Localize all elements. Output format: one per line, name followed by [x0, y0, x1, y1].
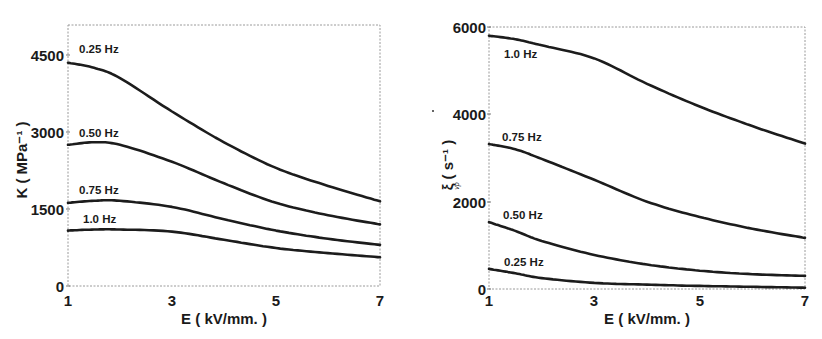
- right-xtick-label: 7: [801, 292, 809, 309]
- left-plot-frame: [68, 25, 380, 286]
- left-ytick-label: 4500: [31, 47, 64, 64]
- left-x-axis-title: E ( kV/mm. ): [181, 310, 267, 327]
- right-xtick-label: 3: [590, 292, 598, 309]
- left-xtick-label: 1: [64, 292, 72, 309]
- curve-0.25hz: [489, 269, 805, 288]
- left-chart-panel: 0 1500 3000 4500 1 3 5 7 E ( kV/mm. ) K …: [13, 25, 384, 327]
- right-xtick-label: 5: [696, 292, 704, 309]
- curve-0.75hz: [489, 144, 805, 238]
- left-y-axis-title: K ( MPa⁻¹ ): [13, 121, 30, 198]
- curve-label: 1.0 Hz: [504, 48, 537, 60]
- right-ytick-label: 4000: [453, 106, 486, 123]
- stray-dot: [432, 110, 434, 112]
- left-xtick-label: 3: [168, 292, 176, 309]
- curve-label: 0.75 Hz: [79, 184, 119, 196]
- curve-label: 0.50 Hz: [503, 209, 543, 221]
- left-xtick-label: 7: [376, 292, 384, 309]
- left-ytick-label: 3000: [31, 124, 64, 141]
- left-ytick-label: 0: [56, 278, 64, 295]
- curve-label: 0.75 Hz: [502, 131, 542, 143]
- left-ytick-label: 1500: [31, 201, 64, 218]
- curve-label: 0.25 Hz: [79, 43, 119, 55]
- left-xtick-label: 5: [272, 292, 280, 309]
- right-ytick-label: 6000: [453, 19, 486, 36]
- right-chart-panel: 0 2000 4000 6000 1 3 5 7 E ( kV/mm. ) ξ …: [432, 19, 809, 327]
- curve-label: 0.25 Hz: [504, 256, 544, 268]
- curve-label: 1.0 Hz: [83, 213, 116, 225]
- right-y-axis-subscript: vp: [453, 182, 461, 190]
- right-xtick-label: 1: [485, 292, 493, 309]
- right-x-axis-title: E ( kV/mm. ): [604, 310, 690, 327]
- right-ytick-label: 2000: [453, 194, 486, 211]
- figure: 0 1500 3000 4500 1 3 5 7 E ( kV/mm. ) K …: [0, 0, 822, 339]
- curve-label: 0.50 Hz: [79, 127, 119, 139]
- curve-1.0hz: [68, 229, 380, 257]
